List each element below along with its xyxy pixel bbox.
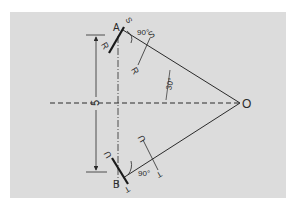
section-line-lower [143, 140, 158, 170]
label-R-mid: R [129, 65, 141, 76]
point-label-A: A [113, 22, 120, 33]
section-line-upper [138, 38, 150, 65]
angle-label-bottom: 90° [138, 169, 150, 178]
label-T-mid: T [155, 169, 164, 179]
label-U-mid: U [136, 133, 148, 144]
dimension-label: 5 [89, 100, 101, 106]
label-R-left: R [99, 40, 111, 51]
label-S-mid: S [146, 29, 156, 41]
label-T-bottom: T [123, 184, 132, 194]
point-label-B: B [113, 179, 120, 190]
label-S-top: S [124, 16, 134, 25]
diagram-canvas: 5 A B O 90° 90° 30° S S R R U U T T [0, 0, 293, 207]
line-A-to-O [123, 30, 240, 103]
point-label-O: O [242, 97, 251, 111]
angle-label-30: 30° [164, 77, 176, 91]
